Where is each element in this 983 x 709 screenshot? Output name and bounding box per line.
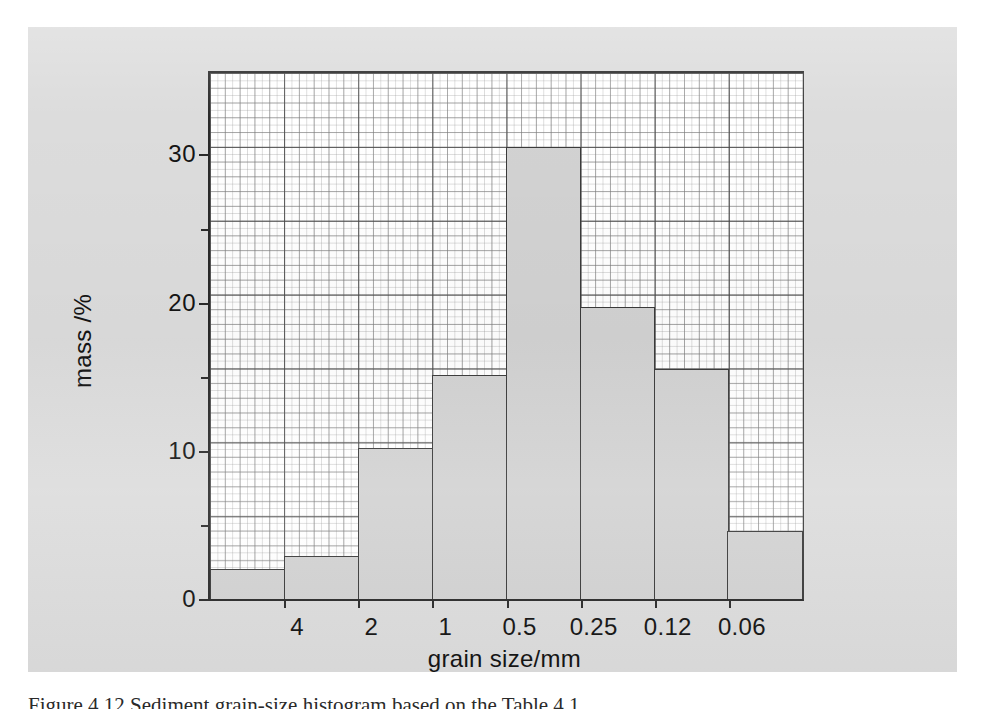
x-axis-tick <box>581 599 583 608</box>
x-axis-tick-label: 0.25 <box>570 613 618 641</box>
figure-caption: Figure 4.12 Sediment grain-size histogra… <box>28 692 958 709</box>
x-axis-tick <box>358 599 360 608</box>
histogram-bar <box>580 307 656 599</box>
histogram-bar <box>506 147 582 599</box>
y-axis-minor-tick <box>201 525 210 527</box>
y-axis-minor-tick <box>201 229 210 231</box>
y-axis-tick-label: 20 <box>168 289 196 317</box>
x-axis-tick <box>729 599 731 608</box>
x-axis-tick-label: 4 <box>290 613 304 641</box>
y-axis-tick <box>199 451 210 453</box>
x-axis-tick <box>507 599 509 608</box>
x-axis-title: grain size/mm <box>208 645 801 673</box>
x-axis-tick-label: 0.06 <box>718 613 766 641</box>
histogram-bar <box>210 569 286 599</box>
y-axis-tick-label: 30 <box>168 140 196 168</box>
scanned-figure-panel: mass /% 0102030 4210.50.250.120.06 grain… <box>28 27 957 672</box>
y-axis-tick <box>199 599 210 601</box>
histogram-bar <box>284 556 360 599</box>
figure-page: mass /% 0102030 4210.50.250.120.06 grain… <box>0 0 983 709</box>
x-axis-tick-label: 1 <box>439 613 453 641</box>
x-axis-tick-label: 2 <box>364 613 378 641</box>
x-axis-tick <box>284 599 286 608</box>
histogram-bar <box>358 448 434 599</box>
histogram-bar <box>654 369 730 599</box>
histogram-bar <box>432 375 508 599</box>
y-axis-tick <box>199 303 210 305</box>
y-axis-tick <box>199 154 210 156</box>
y-axis-minor-tick <box>201 377 210 379</box>
y-axis-title: mass /% <box>69 294 97 388</box>
x-axis-tick-label: 0.12 <box>644 613 692 641</box>
plot-area: 0102030 4210.50.250.120.06 <box>208 71 804 601</box>
y-axis-tick-label: 0 <box>182 585 196 613</box>
histogram-bar <box>727 531 803 599</box>
x-axis-tick <box>655 599 657 608</box>
x-axis-tick <box>432 599 434 608</box>
x-axis-tick-label: 0.5 <box>502 613 536 641</box>
histogram-bars <box>210 73 803 599</box>
y-axis-tick-label: 10 <box>168 437 196 465</box>
